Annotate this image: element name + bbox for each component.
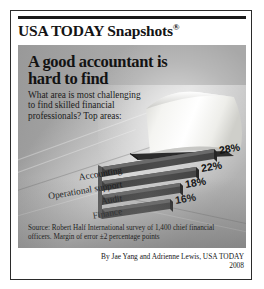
byline: By Jae Yang and Adrienne Lewis, USA TODA… — [24, 252, 244, 270]
byline-credit: By Jae Yang and Adrienne Lewis, USA TODA… — [24, 252, 244, 261]
byline-year: 2008 — [24, 261, 244, 270]
infographic-panel: A good accountant is hard to find What a… — [18, 45, 246, 248]
registered-trademark-icon: ® — [173, 22, 180, 32]
snapshot-frame: USA TODAY Snapshots® A good accountant i… — [10, 10, 252, 280]
masthead: USA TODAY Snapshots® — [18, 16, 246, 40]
masthead-rule — [18, 16, 246, 19]
masthead-title: USA TODAY Snapshots® — [18, 22, 246, 40]
masthead-title-text: USA TODAY Snapshots — [18, 22, 173, 39]
source-note: Source: Robert Half International survey… — [28, 224, 228, 241]
headline: A good accountant is hard to find — [28, 53, 188, 87]
